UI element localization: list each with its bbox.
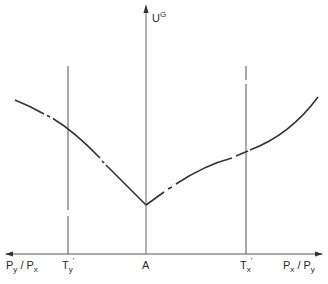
right-arrow-icon (315, 252, 323, 257)
utility-diagram: UG Py / Px Px / Py Ty' A Tx' (0, 0, 328, 284)
tick-label-tx: Tx' (240, 256, 253, 274)
x-axis-left-label: Py / Px (6, 259, 38, 274)
y-axis-label: UG (152, 10, 166, 24)
utility-curve (15, 97, 318, 205)
left-arrow-icon (5, 252, 13, 257)
tick-label-a: A (142, 259, 150, 271)
x-axis-right-label: Px / Py (283, 259, 315, 274)
tick-label-ty: Ty' (62, 256, 75, 274)
up-arrow-icon (144, 4, 149, 13)
